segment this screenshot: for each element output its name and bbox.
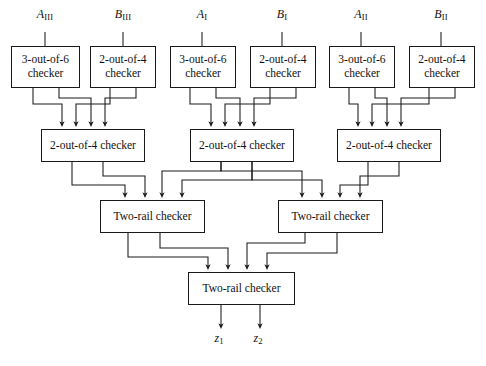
checker-label-line1: 3-out-of-6 bbox=[179, 53, 226, 67]
merge-checker-label: 2-out-of-4 checker bbox=[346, 139, 432, 153]
input-wires bbox=[45, 32, 441, 46]
checker-label-line2: checker bbox=[28, 67, 64, 81]
input-label-b1: BI bbox=[270, 7, 294, 22]
checker-box-2-out-of-4-b1[interactable]: 2-out-of-4 checker bbox=[250, 46, 316, 88]
two-rail-checker-label: Two-rail checker bbox=[113, 210, 191, 224]
checker-label-line1: 2-out-of-4 bbox=[259, 53, 306, 67]
merge-checker-box-left[interactable]: 2-out-of-4 checker bbox=[41, 129, 145, 162]
two-rail-checker-label: Two-rail checker bbox=[291, 210, 369, 224]
two-rail-checker-box-right[interactable]: Two-rail checker bbox=[278, 200, 383, 233]
wires-outputs bbox=[221, 305, 260, 326]
input-label-a1: AI bbox=[190, 7, 214, 22]
two-rail-checker-label: Two-rail checker bbox=[202, 282, 280, 296]
merge-checker-label: 2-out-of-4 checker bbox=[199, 139, 285, 153]
wires-group-1 bbox=[190, 88, 296, 124]
wires-row2-to-row3 bbox=[72, 162, 399, 195]
checker-label-line2: checker bbox=[105, 67, 141, 81]
two-rail-checker-box-left[interactable]: Two-rail checker bbox=[100, 200, 205, 233]
checker-box-3-out-of-6-a2[interactable]: 3-out-of-6 checker bbox=[329, 46, 395, 88]
checker-box-3-out-of-6-a1[interactable]: 3-out-of-6 checker bbox=[170, 46, 236, 88]
checker-label-line2: checker bbox=[185, 67, 221, 81]
two-rail-checker-box-final[interactable]: Two-rail checker bbox=[188, 272, 295, 305]
input-label-a2: AII bbox=[348, 7, 374, 22]
checker-label-line1: 3-out-of-6 bbox=[22, 53, 69, 67]
merge-checker-box-right[interactable]: 2-out-of-4 checker bbox=[337, 129, 441, 162]
input-label-b2: BII bbox=[428, 7, 454, 22]
input-label-a3: AIII bbox=[31, 7, 59, 22]
output-label-z2: z2 bbox=[247, 331, 269, 346]
merge-checker-box-center[interactable]: 2-out-of-4 checker bbox=[190, 129, 294, 162]
input-label-b3: BIII bbox=[109, 7, 137, 22]
checker-label-line2: checker bbox=[424, 67, 460, 81]
checker-label-line2: checker bbox=[265, 67, 301, 81]
checker-tree-diagram: AIII BIII AI BI AII BII 3-out-of-6 check… bbox=[0, 0, 486, 366]
checker-label-line1: 2-out-of-4 bbox=[418, 53, 465, 67]
merge-checker-label: 2-out-of-4 checker bbox=[50, 139, 136, 153]
wires-group-2 bbox=[349, 88, 455, 124]
checker-label-line1: 3-out-of-6 bbox=[338, 53, 385, 67]
checker-box-3-out-of-6-a3[interactable]: 3-out-of-6 checker bbox=[11, 46, 80, 88]
checker-box-2-out-of-4-b3[interactable]: 2-out-of-4 checker bbox=[90, 46, 156, 88]
wires-row3-to-row4 bbox=[128, 233, 337, 267]
checker-label-line2: checker bbox=[344, 67, 380, 81]
checker-label-line1: 2-out-of-4 bbox=[99, 53, 146, 67]
output-label-z1: z1 bbox=[208, 331, 230, 346]
checker-box-2-out-of-4-b2[interactable]: 2-out-of-4 checker bbox=[409, 46, 475, 88]
wires-group-3 bbox=[33, 88, 136, 124]
